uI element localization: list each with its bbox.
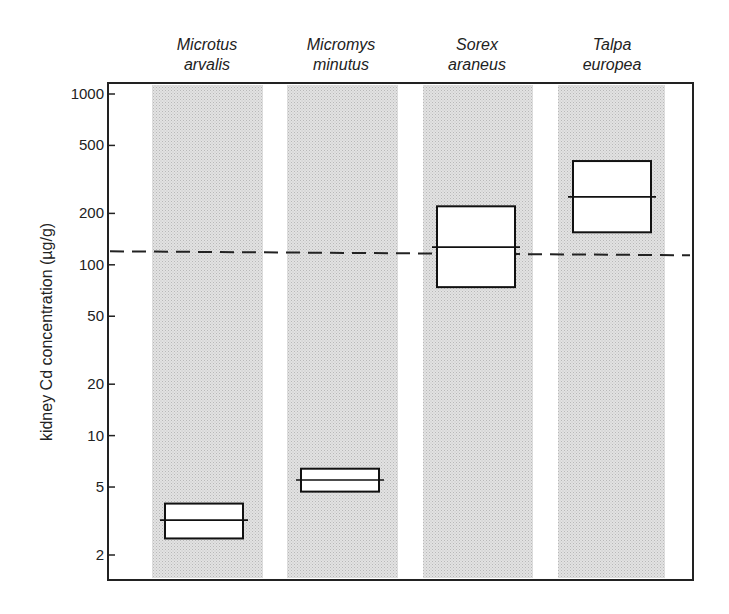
species-band: [423, 85, 533, 578]
species-labels: MicrotusarvalisMicromysminutusSorexarane…: [177, 36, 642, 73]
species-label-species: araneus: [448, 56, 506, 73]
y-tick-label: 20: [87, 375, 104, 392]
y-tick-label: 50: [87, 307, 104, 324]
y-tick-label: 1000: [71, 85, 104, 102]
box-rect: [165, 504, 243, 539]
box-4: [568, 161, 656, 232]
y-axis-label: kidney Cd concentration (µg/g): [38, 223, 55, 441]
box-2: [296, 469, 384, 492]
species-label-genus: Microtus: [177, 36, 237, 53]
box-3: [432, 206, 520, 287]
species-label-species: minutus: [313, 56, 369, 73]
species-band: [287, 85, 398, 578]
y-tick-label: 10: [87, 427, 104, 444]
species-label-genus: Sorex: [456, 36, 499, 53]
species-label-species: arvalis: [184, 56, 230, 73]
y-tick-label: 200: [79, 204, 104, 221]
box-1: [160, 504, 248, 539]
species-label-genus: Micromys: [307, 36, 375, 53]
y-tick-label: 2: [96, 546, 104, 563]
species-band: [558, 85, 665, 578]
y-tick-label: 5: [96, 478, 104, 495]
y-tick-label: 100: [79, 256, 104, 273]
y-tick-label: 500: [79, 136, 104, 153]
species-label-genus: Talpa: [593, 36, 632, 53]
species-label-species: europea: [583, 56, 642, 73]
box-chart: 100050020010050201052 MicrotusarvalisMic…: [0, 0, 729, 614]
